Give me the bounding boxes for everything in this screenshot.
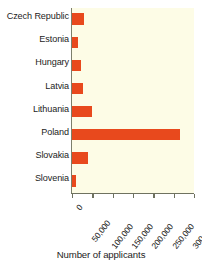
bar [72,152,88,163]
category-label: Slovenia [0,173,69,183]
category-label: Latvia [0,81,69,91]
x-tick-mark [194,194,195,198]
bar [72,175,76,186]
y-axis-line [71,8,72,193]
category-axis-labels: Czech RepublicEstoniaHungaryLatviaLithua… [0,8,69,193]
category-label: Czech Republic [0,11,69,21]
bar [72,106,92,117]
category-label: Slovakia [0,150,69,160]
x-axis-title: Number of applicants [0,249,202,260]
bar [72,83,83,94]
bar-row [72,124,194,146]
bar [72,37,78,48]
x-tick-mark [133,194,134,198]
x-tick-mark [153,194,154,198]
x-tick-label: 0 [74,203,85,213]
x-tick-label: 50,000 [90,218,113,243]
bar-row [72,170,194,192]
category-label: Lithuania [0,104,69,114]
category-label: Hungary [0,57,69,67]
plot-area [72,8,194,193]
bar-row [72,77,194,99]
bar-chart: Czech RepublicEstoniaHungaryLatviaLithua… [0,0,202,269]
bar-row [72,8,194,30]
x-tick-mark [92,194,93,198]
x-tick-mark [72,194,73,198]
category-label: Poland [0,127,69,137]
bar [72,13,84,24]
category-label: Estonia [0,34,69,44]
bar [72,129,180,140]
bar-row [72,31,194,53]
bar [72,60,81,71]
x-tick-mark [113,194,114,198]
bar-row [72,54,194,76]
x-tick-mark [174,194,175,198]
bar-row [72,101,194,123]
bar-row [72,147,194,169]
